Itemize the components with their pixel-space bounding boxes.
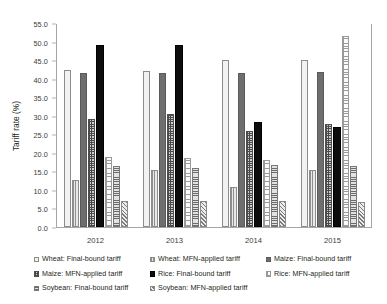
legend-item[interactable]: Wheat: MFN-applied tariff — [150, 256, 240, 263]
wheat-mfn-applied-swatch — [150, 257, 155, 262]
bar — [143, 71, 150, 227]
bar — [167, 114, 174, 227]
bar — [200, 201, 207, 227]
legend-item[interactable]: Rice: Final-bound tariff — [150, 271, 230, 278]
legend-item[interactable]: Wheat: Final-bound tariff — [34, 256, 121, 263]
bar — [238, 73, 245, 227]
x-axis-tick-label: 2015 — [324, 236, 341, 245]
legend-item-label: Rice: MFN-applied tariff — [274, 271, 350, 278]
bar — [342, 36, 349, 227]
x-axis-tick-label: 2014 — [245, 236, 262, 245]
y-axis-tick-label: 55.0 — [33, 20, 48, 29]
bar — [88, 119, 95, 227]
y-axis-tick-label: 30.0 — [33, 112, 48, 121]
bar — [317, 72, 324, 227]
y-axis-tick-label: 10.0 — [33, 186, 48, 195]
y-axis-tick-label: 15.0 — [33, 168, 48, 177]
legend-item-label: Maize: Final-bound tariff — [274, 256, 351, 263]
bar — [333, 127, 340, 227]
bar — [113, 166, 120, 227]
soybean-final-bound-swatch — [34, 286, 39, 291]
y-axis-tick-label: 50.0 — [33, 38, 48, 47]
y-axis-tick-label: 35.0 — [33, 94, 48, 103]
bar — [350, 166, 357, 227]
bar — [309, 170, 316, 227]
bar-group — [64, 24, 129, 227]
bar — [151, 170, 158, 227]
bar — [105, 157, 112, 227]
y-axis-tick-label: 25.0 — [33, 131, 48, 140]
x-axis: 2012201320142015 — [56, 228, 372, 250]
bar — [80, 73, 87, 227]
legend-item-label: Wheat: MFN-applied tariff — [158, 256, 240, 263]
legend-item-label: Soybean: Final-bound tariff — [42, 285, 128, 292]
legend-item[interactable]: Soybean: MFN-applied tariff — [150, 285, 248, 292]
legend-item[interactable]: Maize: MFN-applied tariff — [34, 271, 122, 278]
legend-item-label: Wheat: Final-bound tariff — [42, 256, 121, 263]
tariff-rate-bar-chart: Tariff rate (%) 0.05.010.015.020.025.030… — [0, 0, 387, 304]
legend-item[interactable]: Rice: MFN-applied tariff — [266, 271, 350, 278]
bar — [230, 187, 237, 227]
x-axis-tick-label: 2012 — [87, 236, 104, 245]
bar — [263, 160, 270, 227]
bar — [222, 60, 229, 227]
legend-item-label: Maize: MFN-applied tariff — [42, 271, 122, 278]
rice-final-bound-swatch — [150, 271, 155, 276]
bar — [175, 45, 182, 227]
bar — [279, 201, 286, 227]
legend-item[interactable]: Soybean: Final-bound tariff — [34, 285, 128, 292]
bar — [192, 168, 199, 227]
rice-mfn-applied-swatch — [266, 271, 271, 276]
bar — [301, 60, 308, 227]
wheat-final-bound-swatch — [34, 257, 39, 262]
bar — [121, 201, 128, 227]
x-axis-tick-label: 2013 — [166, 236, 183, 245]
y-axis: Tariff rate (%) 0.05.010.015.020.025.030… — [0, 24, 56, 228]
legend-item[interactable]: Maize: Final-bound tariff — [266, 256, 351, 263]
bar — [358, 202, 365, 227]
bar — [96, 45, 103, 227]
y-axis-tick-label: 0.0 — [38, 224, 48, 233]
y-axis-tick-label: 40.0 — [33, 75, 48, 84]
bar-group — [222, 24, 287, 227]
bar — [325, 124, 332, 227]
bar — [64, 70, 71, 227]
bar-group — [143, 24, 208, 227]
bar — [254, 122, 261, 227]
bar — [271, 165, 278, 227]
y-axis-tick-label: 20.0 — [33, 149, 48, 158]
chart-legend: Wheat: Final-bound tariffWheat: MFN-appl… — [34, 256, 384, 300]
y-axis-tick-label: 5.0 — [38, 205, 48, 214]
maize-final-bound-swatch — [266, 257, 271, 262]
plot-area — [56, 24, 372, 228]
y-axis-tick-label: 45.0 — [33, 57, 48, 66]
legend-item-label: Soybean: MFN-applied tariff — [158, 285, 248, 292]
bar — [184, 158, 191, 227]
bar — [246, 131, 253, 227]
bar-group — [301, 24, 366, 227]
bar — [72, 180, 79, 227]
maize-mfn-applied-swatch — [34, 271, 39, 276]
soybean-mfn-applied-swatch — [150, 286, 155, 291]
bar — [159, 73, 166, 227]
y-axis-title: Tariff rate (%) — [11, 66, 21, 186]
legend-item-label: Rice: Final-bound tariff — [158, 271, 230, 278]
